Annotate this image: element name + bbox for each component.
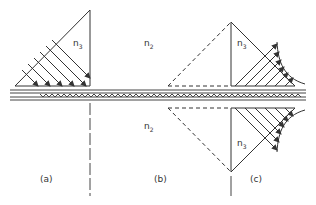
label-n3-a: n3 bbox=[73, 39, 83, 50]
label-n2-top: n2 bbox=[144, 39, 154, 50]
panel-label-b: (b) bbox=[154, 175, 167, 184]
label-n3-c-bottom: n3 bbox=[237, 139, 247, 150]
output-rays-upper bbox=[235, 44, 293, 86]
prism-c-upper bbox=[168, 22, 305, 86]
panel-label-c: (c) bbox=[250, 175, 262, 184]
label-n3-c-top: n3 bbox=[237, 39, 247, 50]
label-n2-bottom: n2 bbox=[144, 122, 154, 133]
output-envelope-upper bbox=[277, 42, 305, 84]
panel-label-a: (a) bbox=[40, 175, 53, 184]
output-envelope-lower bbox=[277, 110, 305, 152]
waveguide-strip bbox=[10, 90, 306, 100]
